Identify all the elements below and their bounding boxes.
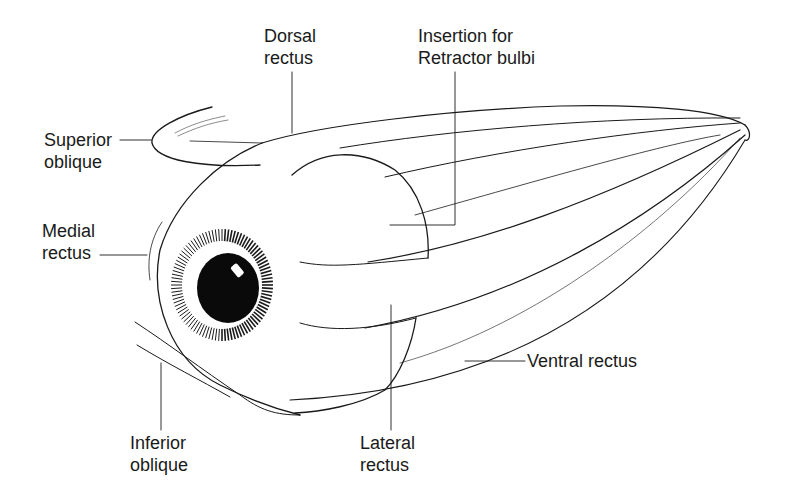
label-line: Medial <box>42 220 95 242</box>
label-medial-rectus: Medial rectus <box>42 220 95 264</box>
label-line: Retractor bulbi <box>418 47 535 69</box>
leader-lines <box>100 72 525 430</box>
eye-muscle-diagram: Dorsal rectus Insertion for Retractor bu… <box>0 0 792 493</box>
inferior-oblique-muscle <box>135 322 300 415</box>
label-line: Dorsal <box>264 25 316 47</box>
label-line: rectus <box>42 242 95 264</box>
label-line: Lateral <box>360 432 415 454</box>
label-line: Ventral rectus <box>527 350 637 372</box>
label-inferior-oblique: Inferior oblique <box>130 432 188 476</box>
label-insertion-retractor-bulbi: Insertion for Retractor bulbi <box>418 25 535 69</box>
label-dorsal-rectus: Dorsal rectus <box>264 25 316 69</box>
superior-oblique-muscle <box>152 107 262 166</box>
label-line: rectus <box>264 47 316 69</box>
label-lateral-rectus: Lateral rectus <box>360 432 415 476</box>
label-line: rectus <box>360 454 415 476</box>
label-ventral-rectus: Ventral rectus <box>527 350 637 372</box>
label-superior-oblique: Superior oblique <box>44 129 112 173</box>
muscle-cone <box>262 106 750 400</box>
label-line: Superior <box>44 129 112 151</box>
label-line: Inferior <box>130 432 188 454</box>
pupil <box>197 253 259 323</box>
eyeball <box>149 143 428 415</box>
label-line: oblique <box>130 454 188 476</box>
label-line: oblique <box>44 151 112 173</box>
eye-illustration <box>0 0 792 493</box>
label-line: Insertion for <box>418 25 535 47</box>
